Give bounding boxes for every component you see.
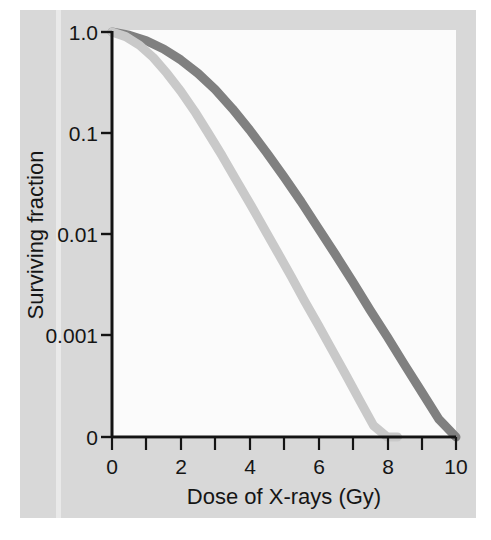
x-axis-ticks (112, 437, 456, 450)
y-tick-label-0: 0 (60, 427, 98, 448)
y-tick-label-1: 1.0 (40, 22, 98, 43)
y-axis-ticks (101, 32, 112, 437)
series-radiosensitive-cells (112, 32, 398, 437)
figure-container: 1.0 0.1 0.01 0.001 0 0 2 4 6 8 10 Dose o… (0, 0, 491, 540)
x-tick-label-8: 8 (368, 456, 408, 477)
series-radioresistant-cells (112, 32, 456, 437)
x-tick-label-0: 0 (92, 456, 132, 477)
x-tick-label-2: 2 (161, 456, 201, 477)
y-axis-title: Surviving fraction (23, 105, 49, 365)
x-tick-label-10: 10 (436, 456, 476, 477)
x-tick-label-6: 6 (299, 456, 339, 477)
x-axis-title: Dose of X-rays (Gy) (112, 484, 456, 510)
x-tick-label-4: 4 (230, 456, 270, 477)
